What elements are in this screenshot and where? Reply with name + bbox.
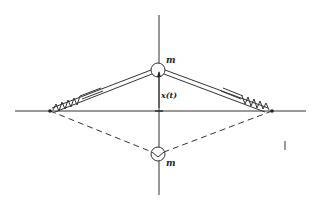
label-mass-top: m — [166, 55, 176, 65]
right-rod — [164, 70, 268, 112]
left-rod — [52, 70, 152, 112]
left-pivot — [48, 109, 52, 113]
right-pivot — [270, 109, 274, 113]
bottom-mass — [151, 147, 165, 161]
label-displacement: x(t) — [160, 90, 177, 100]
left-spring — [53, 96, 80, 111]
dashed-right-link — [164, 111, 272, 152]
diagram-canvas: m x(t) m — [0, 0, 317, 201]
dashed-left-link — [50, 111, 152, 152]
label-mass-bottom: m — [166, 158, 176, 168]
